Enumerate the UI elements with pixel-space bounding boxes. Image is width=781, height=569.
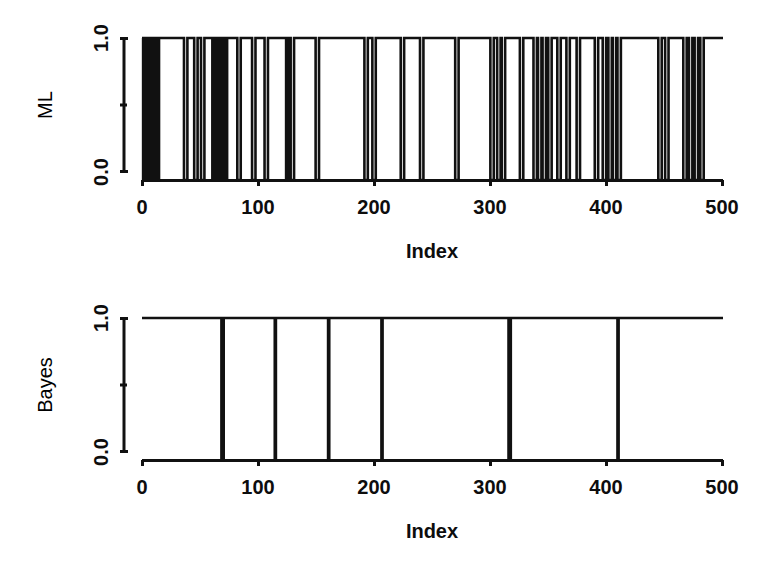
bayes-ytick-label-0: 0.0 [90, 438, 112, 466]
ml-xtick-500: 500 [705, 196, 738, 218]
ml-xtick-0: 0 [136, 196, 147, 218]
ml-ytick-label-1: 1.0 [90, 24, 112, 52]
ml-ytick-label-0: 0.0 [90, 158, 112, 186]
bayes-xtick-400: 400 [589, 476, 622, 498]
bayes-xtick-100: 100 [241, 476, 274, 498]
ml-xtick-100: 100 [241, 196, 274, 218]
bayes-xtick-0: 0 [136, 476, 147, 498]
ml-axis-label-y: ML [34, 91, 56, 119]
two-panel-step-figure: 1.0 0.0 ML 0 100 200 300 400 500 Index [0, 0, 781, 569]
bayes-axis-label-y: Bayes [34, 357, 56, 413]
bayes-axis-label-x: Index [406, 520, 458, 542]
ml-xtick-300: 300 [473, 196, 506, 218]
bayes-xtick-300: 300 [473, 476, 506, 498]
ml-xtick-400: 400 [589, 196, 622, 218]
bayes-xtick-200: 200 [357, 476, 390, 498]
ml-axis-label-x: Index [406, 240, 458, 262]
bayes-ytick-label-1: 1.0 [90, 304, 112, 332]
bayes-xtick-500: 500 [705, 476, 738, 498]
ml-xtick-200: 200 [357, 196, 390, 218]
